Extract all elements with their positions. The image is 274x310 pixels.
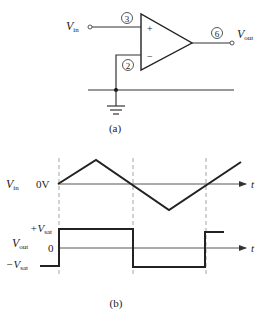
vout-time-axis-label: t (251, 242, 255, 254)
pos-sat-label: +Vsat (30, 222, 52, 236)
waveform-plots: t Vin 0V t +Vsat Vout 0 −Vsat (b) (6, 158, 255, 310)
pin-6-label: 6 (215, 29, 220, 39)
comparator-figure: Vin 3 + − 2 6 Vout (a) (0, 0, 274, 310)
plus-sign: + (147, 23, 153, 34)
vout-axis-label: Vout (12, 236, 28, 251)
vout-zero-label: 0 (48, 242, 54, 254)
vin-axis-label: Vin (6, 177, 19, 192)
vout-terminal-icon (230, 41, 234, 45)
neg-sat-label: −Vsat (6, 258, 28, 272)
minus-sign: − (147, 51, 153, 62)
pin-3-label: 3 (125, 14, 130, 24)
caption-b: (b) (110, 297, 123, 310)
vin-terminal-label: Vin (66, 19, 79, 34)
vout-terminal-label: Vout (237, 27, 253, 42)
caption-a: (a) (109, 122, 122, 135)
vin-zero-label: 0V (36, 178, 50, 190)
ground-icon (107, 90, 125, 114)
vin-triangle-wave (58, 160, 241, 210)
vin-time-axis-label: t (251, 178, 255, 190)
circuit-schematic: Vin 3 + − 2 6 Vout (a) (66, 13, 253, 136)
vin-terminal-icon (88, 25, 92, 29)
pin-2-label: 2 (126, 61, 131, 71)
